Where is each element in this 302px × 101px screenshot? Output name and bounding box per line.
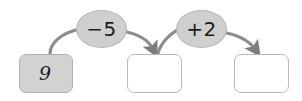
number-chain-diagram: 9 −5 +2 <box>0 0 302 101</box>
start-value-box[interactable]: 9 <box>19 54 73 93</box>
arrow-box1-to-op1 <box>50 29 80 54</box>
operation-add-2-label: +2 <box>186 19 216 39</box>
arrow-op2-to-box3 <box>222 32 255 49</box>
operation-subtract-5-label: −5 <box>86 19 116 39</box>
operation-add-2: +2 <box>176 10 227 48</box>
arrow-op1-to-box2 <box>122 31 153 49</box>
start-value-text: 9 <box>39 64 53 83</box>
operation-subtract-5: −5 <box>76 10 127 48</box>
result-box-1[interactable] <box>127 54 182 93</box>
result-box-2[interactable] <box>234 54 289 93</box>
